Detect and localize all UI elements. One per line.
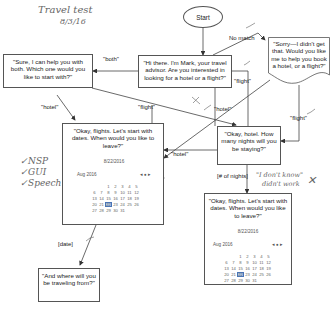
greeting-text: "Hi there. I'm Mark, your travel advisor…: [139, 56, 231, 81]
hotel-nights-node: "Okay, hotel. How many nights will you b…: [217, 126, 281, 165]
annotation-date: 8/3/16: [60, 17, 86, 26]
edge-label-flight-greeting: "flight": [234, 78, 251, 84]
greeting-node: "Hi there. I'm Mark, your travel advisor…: [138, 55, 232, 88]
x-mark-icon: ✕: [307, 174, 316, 187]
calendar-day[interactable]: 21: [230, 272, 237, 277]
checklist-speech: ✓Speech: [20, 178, 61, 189]
calendar-day[interactable]: 2: [112, 184, 119, 189]
annotation-dont-know: "I don't know": [256, 171, 303, 179]
calendar-day[interactable]: 15: [237, 266, 244, 271]
calendar-day[interactable]: 9: [112, 190, 119, 195]
calendar-day[interactable]: 24: [119, 202, 126, 207]
flights-dates-2-text: "Okay, flights. Let's start with dates. …: [205, 194, 291, 219]
calendar-empty-cell: [98, 184, 105, 189]
calendar-2-selected-date: 8/22/2016: [213, 228, 283, 235]
calendar-day[interactable]: 31: [251, 278, 258, 283]
calendar-day[interactable]: 14: [98, 196, 105, 201]
calendar-2-nav-arrows[interactable]: ◂ ● ▸: [272, 241, 283, 248]
calendar-day[interactable]: 12: [265, 260, 272, 265]
calendar-day[interactable]: 2: [244, 254, 251, 259]
traveling-from-text: "And where will you be traveling from?": [39, 269, 99, 287]
calendar-day[interactable]: 4: [126, 184, 133, 189]
calendar-day[interactable]: 11: [258, 260, 265, 265]
calendar-grid[interactable]: 1234567891011121314151617181920212223242…: [91, 184, 151, 213]
calendar-day[interactable]: 9: [244, 260, 251, 265]
edge-label-hotel-from-flights: "hotel": [171, 151, 188, 157]
calendar-day[interactable]: 17: [119, 196, 126, 201]
calendar-day[interactable]: 13: [223, 266, 230, 271]
calendar-day[interactable]: 24: [251, 272, 258, 277]
both-node: "Sure, I can help you with both. Which o…: [3, 54, 93, 88]
calendar-day[interactable]: 18: [258, 266, 265, 271]
sorry-text: "Sorry—I didn't get that. Would you like…: [268, 37, 330, 70]
calendar-day[interactable]: 1: [237, 254, 244, 259]
calendar-day[interactable]: 19: [133, 196, 140, 201]
traveling-from-node: "And where will you be traveling from?": [38, 268, 100, 302]
calendar-day[interactable]: 11: [126, 190, 133, 195]
calendar-selected-date: 8/22/2016: [77, 158, 151, 165]
checklist-gui: ✓GUI: [20, 167, 61, 178]
annotation-title: Travel test: [38, 4, 92, 15]
edge-label-date: [date]: [58, 241, 73, 247]
calendar-day[interactable]: 10: [251, 260, 258, 265]
calendar-day[interactable]: 29: [105, 208, 112, 213]
calendar-day[interactable]: 22: [105, 202, 112, 207]
calendar-day[interactable]: 25: [126, 202, 133, 207]
calendar-day[interactable]: 31: [119, 208, 126, 213]
calendar-day[interactable]: 17: [251, 266, 258, 271]
calendar-day[interactable]: 28: [98, 208, 105, 213]
calendar-day[interactable]: 1: [105, 184, 112, 189]
calendar-day[interactable]: 29: [237, 278, 244, 283]
calendar-day[interactable]: 14: [230, 266, 237, 271]
flights-dates-text: "Okay, flights. Let's start with dates. …: [63, 124, 163, 149]
flights-dates-node-2: "Okay, flights. Let's start with dates. …: [204, 193, 292, 285]
calendar-day[interactable]: 23: [112, 202, 119, 207]
calendar-widget-2[interactable]: 8/22/2016 Aug 2016 ◂ ● ▸ 123456789101112…: [213, 228, 283, 283]
flights-dates-node: "Okay, flights. Let's start with dates. …: [62, 123, 164, 225]
calendar-day[interactable]: 28: [230, 278, 237, 283]
calendar-day[interactable]: 5: [133, 184, 140, 189]
calendar-day[interactable]: 23: [244, 272, 251, 277]
calendar-day[interactable]: 13: [91, 196, 98, 201]
calendar-day[interactable]: 26: [265, 272, 272, 277]
calendar-day[interactable]: 16: [112, 196, 119, 201]
calendar-day[interactable]: 10: [119, 190, 126, 195]
calendar-day[interactable]: 7: [98, 190, 105, 195]
calendar-2-grid[interactable]: 1234567891011121314151617181920212223242…: [223, 254, 283, 283]
calendar-day[interactable]: 25: [258, 272, 265, 277]
calendar-day[interactable]: 3: [119, 184, 126, 189]
edge-label-hotel-from-sorry: "hotel": [214, 106, 231, 112]
calendar-empty-cell: [91, 184, 98, 189]
edge-label-flight-from-sorry: "flight": [290, 115, 307, 121]
calendar-month-label: Aug 2016: [77, 171, 97, 178]
calendar-day[interactable]: 16: [244, 266, 251, 271]
calendar-day[interactable]: 30: [112, 208, 119, 213]
calendar-day[interactable]: 4: [258, 254, 265, 259]
calendar-day[interactable]: 21: [98, 202, 105, 207]
calendar-day[interactable]: 22: [237, 272, 244, 277]
calendar-day[interactable]: 27: [91, 208, 98, 213]
calendar-day[interactable]: 26: [133, 202, 140, 207]
calendar-day[interactable]: 7: [230, 260, 237, 265]
edge-label-flight-from-both: "flight": [138, 104, 155, 110]
calendar-day[interactable]: 27: [223, 278, 230, 283]
calendar-nav-arrows[interactable]: ◂ ● ▸: [140, 171, 151, 178]
calendar-widget[interactable]: 8/22/2016 Aug 2016 ◂ ● ▸ 123456789101112…: [77, 158, 151, 213]
calendar-day[interactable]: 5: [265, 254, 272, 259]
calendar-day[interactable]: 19: [265, 266, 272, 271]
calendar-day[interactable]: 18: [126, 196, 133, 201]
calendar-day[interactable]: 8: [237, 260, 244, 265]
calendar-day[interactable]: 15: [105, 196, 112, 201]
calendar-day[interactable]: 20: [91, 202, 98, 207]
calendar-day[interactable]: 3: [251, 254, 258, 259]
both-text: "Sure, I can help you with both. Which o…: [4, 55, 92, 80]
calendar-day[interactable]: 6: [223, 260, 230, 265]
calendar-day[interactable]: 12: [133, 190, 140, 195]
calendar-day[interactable]: 6: [91, 190, 98, 195]
annotation-didnt-work: didn't work: [262, 180, 300, 188]
sorry-node: "Sorry—I didn't get that. Would you like…: [268, 37, 330, 73]
calendar-day[interactable]: 30: [244, 278, 251, 283]
calendar-empty-cell: [230, 254, 237, 259]
calendar-day[interactable]: 8: [105, 190, 112, 195]
calendar-day[interactable]: 20: [223, 272, 230, 277]
